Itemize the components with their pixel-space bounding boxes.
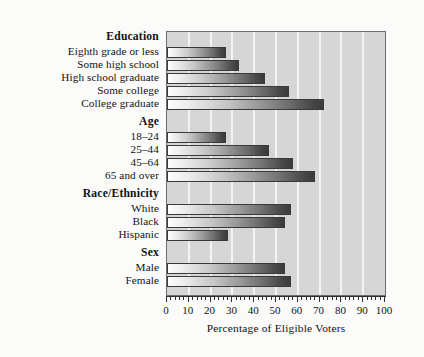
category-label: Some college bbox=[97, 84, 159, 96]
gridline bbox=[297, 32, 299, 295]
axis-tick-major bbox=[340, 296, 341, 302]
x-tick-label: 40 bbox=[248, 304, 259, 316]
x-axis bbox=[166, 296, 386, 304]
axis-tick-major bbox=[188, 296, 189, 302]
bar bbox=[167, 276, 291, 287]
axis-tick-minor bbox=[349, 296, 350, 300]
axis-tick-minor bbox=[262, 296, 263, 300]
bar bbox=[167, 217, 285, 228]
gridline bbox=[319, 32, 321, 295]
x-tick-label: 20 bbox=[204, 304, 215, 316]
category-label: Eighth grade or less bbox=[68, 45, 159, 57]
bar bbox=[167, 263, 285, 274]
category-label: High school graduate bbox=[61, 71, 159, 83]
axis-tick-minor bbox=[336, 296, 337, 300]
category-label-column: EducationEighth grade or lessSome high s… bbox=[0, 31, 163, 296]
axis-tick-minor bbox=[314, 296, 315, 300]
x-tick-label: 0 bbox=[163, 304, 169, 316]
axis-tick-minor bbox=[244, 296, 245, 300]
group-heading-label: Age bbox=[139, 116, 159, 128]
plot-frame bbox=[166, 31, 386, 296]
x-tick-label: 30 bbox=[226, 304, 237, 316]
group-heading-label: Sex bbox=[141, 247, 159, 259]
axis-tick-minor bbox=[205, 296, 206, 300]
axis-tick-major bbox=[253, 296, 254, 302]
axis-tick-minor bbox=[218, 296, 219, 300]
axis-tick-minor bbox=[201, 296, 202, 300]
category-label: Hispanic bbox=[118, 228, 159, 240]
bar-chart-figure: EducationEighth grade or lessSome high s… bbox=[0, 0, 424, 357]
category-label: 25–44 bbox=[131, 143, 159, 155]
axis-tick-minor bbox=[258, 296, 259, 300]
category-label: Some high school bbox=[77, 58, 159, 70]
axis-tick-major bbox=[275, 296, 276, 302]
category-label: 45–64 bbox=[131, 156, 159, 168]
axis-tick-major bbox=[166, 296, 167, 302]
axis-tick-minor bbox=[236, 296, 237, 300]
axis-tick-minor bbox=[266, 296, 267, 300]
category-label: White bbox=[131, 202, 159, 214]
axis-tick-major bbox=[210, 296, 211, 302]
axis-tick-minor bbox=[271, 296, 272, 300]
axis-tick-minor bbox=[301, 296, 302, 300]
x-axis-title: Percentage of Eligible Voters bbox=[166, 322, 386, 334]
axis-tick-minor bbox=[240, 296, 241, 300]
bar bbox=[167, 204, 291, 215]
category-label: 18–24 bbox=[131, 130, 159, 142]
axis-tick-major bbox=[362, 296, 363, 302]
axis-tick-minor bbox=[192, 296, 193, 300]
axis-tick-minor bbox=[371, 296, 372, 300]
x-tick-label: 90 bbox=[357, 304, 368, 316]
category-label: Male bbox=[136, 261, 159, 273]
category-label: Black bbox=[132, 215, 159, 227]
axis-tick-minor bbox=[327, 296, 328, 300]
axis-tick-minor bbox=[227, 296, 228, 300]
axis-tick-minor bbox=[249, 296, 250, 300]
category-label: 65 and over bbox=[105, 169, 159, 181]
axis-tick-major bbox=[231, 296, 232, 302]
axis-tick-minor bbox=[284, 296, 285, 300]
bar bbox=[167, 60, 239, 71]
axis-tick-minor bbox=[367, 296, 368, 300]
bar bbox=[167, 47, 226, 58]
axis-tick-minor bbox=[358, 296, 359, 300]
bar bbox=[167, 132, 226, 143]
x-tick-label: 60 bbox=[291, 304, 302, 316]
category-label: College graduate bbox=[81, 97, 159, 109]
axis-tick-minor bbox=[380, 296, 381, 300]
x-tick-label: 100 bbox=[376, 304, 393, 316]
axis-tick-major bbox=[384, 296, 385, 302]
gridline bbox=[362, 32, 364, 295]
bar bbox=[167, 73, 265, 84]
group-heading-label: Race/Ethnicity bbox=[83, 188, 159, 200]
axis-tick-minor bbox=[332, 296, 333, 300]
axis-tick-minor bbox=[214, 296, 215, 300]
axis-tick-minor bbox=[183, 296, 184, 300]
axis-tick-minor bbox=[306, 296, 307, 300]
axis-tick-minor bbox=[175, 296, 176, 300]
axis-tick-minor bbox=[288, 296, 289, 300]
axis-tick-major bbox=[297, 296, 298, 302]
gridline bbox=[340, 32, 342, 295]
x-tick-label: 80 bbox=[335, 304, 346, 316]
bar bbox=[167, 145, 269, 156]
axis-tick-minor bbox=[179, 296, 180, 300]
axis-tick-minor bbox=[353, 296, 354, 300]
plot-area bbox=[167, 32, 385, 295]
axis-tick-minor bbox=[223, 296, 224, 300]
x-tick-label: 10 bbox=[182, 304, 193, 316]
bar bbox=[167, 230, 228, 241]
category-label: Female bbox=[125, 274, 159, 286]
x-axis-tick-labels: 0102030405060708090100 bbox=[166, 304, 386, 318]
axis-tick-minor bbox=[375, 296, 376, 300]
axis-tick-minor bbox=[292, 296, 293, 300]
axis-tick-minor bbox=[310, 296, 311, 300]
x-tick-label: 50 bbox=[270, 304, 281, 316]
axis-tick-major bbox=[319, 296, 320, 302]
axis-tick-minor bbox=[197, 296, 198, 300]
bar bbox=[167, 158, 293, 169]
x-tick-label: 70 bbox=[313, 304, 324, 316]
bar bbox=[167, 86, 289, 97]
axis-tick-minor bbox=[279, 296, 280, 300]
axis-tick-minor bbox=[170, 296, 171, 300]
